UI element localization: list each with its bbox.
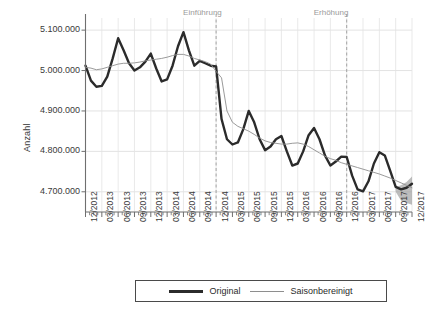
x-axis-tick-label: 06/2016 bbox=[318, 191, 328, 222]
x-axis-tick-label: 12/2015 bbox=[285, 191, 295, 222]
x-axis-tick-label: 12/2017 bbox=[416, 191, 425, 222]
y-axis-tick-label: 4.900.000 bbox=[24, 105, 80, 115]
x-axis-tick-label: 03/2017 bbox=[367, 191, 377, 222]
x-axis-tick-label: 12/2012 bbox=[89, 191, 99, 222]
x-axis-tick-label: 12/2014 bbox=[220, 191, 230, 222]
x-axis-tick-label: 09/2015 bbox=[269, 191, 279, 222]
x-axis-tick-label: 06/2017 bbox=[383, 191, 393, 222]
annotation-label-einführung: Einführung bbox=[183, 8, 222, 17]
legend-label-original: Original bbox=[209, 286, 240, 296]
y-axis-tick-label: 5.000.000 bbox=[24, 65, 80, 75]
legend-swatch-saisonbereinigt bbox=[250, 291, 284, 292]
y-axis-tick-label: 5.100.000 bbox=[24, 24, 80, 34]
chart-canvas bbox=[0, 0, 425, 317]
legend-swatch-original bbox=[169, 290, 203, 293]
legend-label-saisonbereinigt: Saisonbereinigt bbox=[290, 286, 352, 296]
x-axis-tick-label: 03/2013 bbox=[105, 191, 115, 222]
x-axis-tick-label: 09/2013 bbox=[138, 191, 148, 222]
x-axis-tick-label: 06/2014 bbox=[187, 191, 197, 222]
x-axis-tick-label: 09/2016 bbox=[334, 191, 344, 222]
x-axis-tick-label: 03/2016 bbox=[301, 191, 311, 222]
x-axis-tick-label: 12/2016 bbox=[350, 191, 360, 222]
x-axis-tick-label: 06/2015 bbox=[252, 191, 262, 222]
annotation-label-erhöhung: Erhöhung bbox=[314, 8, 349, 17]
chart-legend: Original Saisonbereinigt bbox=[135, 280, 387, 302]
chart-container: Anzahl Original Saisonbereinigt 5.100.00… bbox=[0, 0, 425, 317]
x-axis-tick-label: 06/2013 bbox=[122, 191, 132, 222]
legend-item-original: Original bbox=[169, 286, 240, 296]
y-axis-tick-label: 4.700.000 bbox=[24, 186, 80, 196]
x-axis-tick-label: 12/2013 bbox=[154, 191, 164, 222]
x-axis-tick-label: 09/2017 bbox=[399, 191, 409, 222]
x-axis-tick-label: 03/2014 bbox=[171, 191, 181, 222]
x-axis-tick-label: 03/2015 bbox=[236, 191, 246, 222]
legend-item-saisonbereinigt: Saisonbereinigt bbox=[250, 286, 352, 296]
y-axis-tick-label: 4.800.000 bbox=[24, 145, 80, 155]
x-axis-tick-label: 09/2014 bbox=[203, 191, 213, 222]
